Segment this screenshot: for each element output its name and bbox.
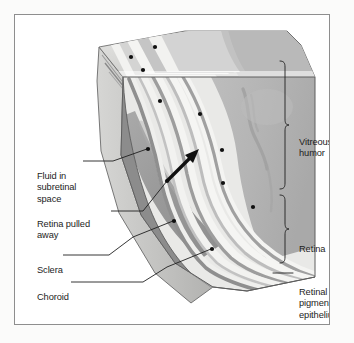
label-retinal-pigmented-epithelium: Retinal pigmented epithelium — [299, 287, 330, 321]
label-choroid: Choroid — [37, 292, 69, 303]
figure-root: Fluid in subretinal space Retina pulled … — [0, 0, 354, 343]
block-top-face — [99, 26, 315, 77]
top-face-bands — [99, 26, 315, 77]
label-retina: Retina — [299, 244, 325, 255]
label-fluid-in-subretinal-space: Fluid in subretinal space — [37, 171, 76, 205]
label-sclera: Sclera — [37, 265, 63, 276]
eye-wall-block — [97, 26, 315, 323]
figure-frame: Fluid in subretinal space Retina pulled … — [14, 14, 330, 325]
label-retina-pulled-away: Retina pulled away — [37, 219, 90, 242]
label-vitreous-humor: Vitreous humor — [299, 137, 330, 160]
retinal-detachment-illustration — [15, 15, 329, 324]
